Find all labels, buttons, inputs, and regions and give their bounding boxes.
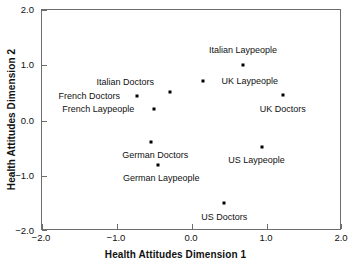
data-point-label: French Doctors <box>58 91 120 101</box>
x-tick-label: −1.0 <box>107 232 126 243</box>
x-axis-title: Health Attitudes Dimension 1 <box>0 249 351 260</box>
scatter-plot-figure: Italian LaypeopleUK LaypeopleUK DoctorsI… <box>0 0 351 266</box>
y-axis-title: Health Attitudes Dimension 2 <box>6 4 17 236</box>
data-point-label: UK Laypeople <box>221 76 278 86</box>
data-point-marker <box>202 80 205 83</box>
y-tick-mark <box>42 10 47 11</box>
x-tick-label: 0.0 <box>184 232 197 243</box>
data-point-marker <box>136 95 139 98</box>
data-point-marker <box>260 146 263 149</box>
data-point-marker <box>152 107 155 110</box>
data-point-label: Italian Doctors <box>96 77 154 87</box>
x-tick-label: 2.0 <box>334 232 347 243</box>
x-tick-mark <box>341 224 342 229</box>
data-point-marker <box>149 141 152 144</box>
y-tick-mark <box>42 176 47 177</box>
x-tick-label: 1.0 <box>259 232 272 243</box>
x-tick-mark <box>192 224 193 229</box>
data-point-label: Italian Laypeople <box>209 45 277 55</box>
data-point-label: US Doctors <box>201 212 247 222</box>
x-tick-mark <box>267 224 268 229</box>
data-point-marker <box>242 64 245 67</box>
data-point-label: US Laypeople <box>228 155 285 165</box>
plot-area: Italian LaypeopleUK LaypeopleUK DoctorsI… <box>41 9 341 230</box>
data-point-label: German Laypeople <box>123 173 200 183</box>
y-tick-mark <box>42 121 47 122</box>
data-point-label: German Doctors <box>122 150 188 160</box>
x-tick-mark <box>42 224 43 229</box>
y-tick-mark <box>42 65 47 66</box>
x-tick-label: −2.0 <box>32 232 51 243</box>
data-point-label: French Laypeople <box>62 104 134 114</box>
data-point-label: UK Doctors <box>260 104 306 114</box>
data-point-marker <box>157 164 160 167</box>
data-point-marker <box>281 94 284 97</box>
data-point-marker <box>169 90 172 93</box>
data-point-marker <box>223 201 226 204</box>
x-tick-mark <box>117 224 118 229</box>
y-tick-mark <box>42 230 47 231</box>
